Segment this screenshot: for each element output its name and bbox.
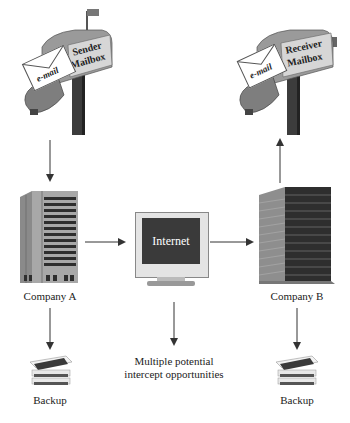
monitor-base xyxy=(147,281,195,286)
company-b-label: Company B xyxy=(255,290,339,302)
building-a-icon xyxy=(18,189,80,285)
backup-b-icon xyxy=(272,352,322,392)
company-a-label: Company A xyxy=(8,290,92,302)
building-b-icon xyxy=(259,185,335,285)
intercept-label: Multiple potential intercept opportuniti… xyxy=(118,355,230,381)
backup-a-icon xyxy=(26,352,76,392)
backup-a-label: Backup xyxy=(20,394,80,406)
backup-b-label: Backup xyxy=(267,394,327,406)
internet-label: Internet xyxy=(142,234,200,249)
internet-monitor: Internet xyxy=(135,212,215,292)
